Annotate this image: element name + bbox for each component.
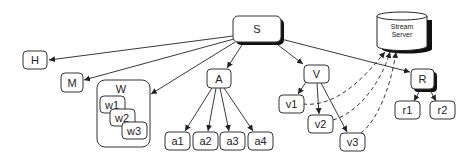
node-h-label: H <box>31 54 39 66</box>
node-r-label: R <box>419 73 427 85</box>
node-w3[interactable]: w3 <box>122 122 147 139</box>
node-h[interactable]: H <box>23 51 47 69</box>
edge-r-r2 <box>431 92 436 101</box>
node-v[interactable]: V <box>304 65 329 83</box>
node-v2[interactable]: v2 <box>308 115 333 133</box>
edge-a-a4 <box>224 88 253 131</box>
edge-v-v2 <box>317 83 319 114</box>
node-r1[interactable]: r1 <box>395 101 420 119</box>
node-r[interactable]: R <box>411 69 437 92</box>
edge-v-v1 <box>298 82 306 94</box>
edge-s-a <box>227 45 242 68</box>
node-v1[interactable]: v1 <box>279 95 304 113</box>
node-w-label: W <box>116 83 127 95</box>
edge-a-a1 <box>185 88 212 131</box>
node-a1-label: a1 <box>171 135 183 147</box>
edge-r-r1 <box>414 92 419 101</box>
node-v3[interactable]: v3 <box>340 133 365 151</box>
node-m[interactable]: M <box>61 73 83 92</box>
node-a2[interactable]: a2 <box>193 132 218 150</box>
hierarchy-diagram: S H M W w1 w2 w3 A a1 a2 a3 <box>0 0 476 164</box>
node-a[interactable]: A <box>207 69 231 88</box>
edge-a-a2 <box>208 88 216 131</box>
node-m-label: M <box>67 77 76 89</box>
node-v2-label: v2 <box>315 118 327 130</box>
node-r1-label: r1 <box>403 104 413 116</box>
node-r2-label: r2 <box>438 104 448 116</box>
node-s-label: S <box>253 23 260 35</box>
edge-a-a3 <box>220 88 229 131</box>
node-a4-label: a4 <box>254 135 266 147</box>
node-w3-label: w3 <box>126 125 141 137</box>
edge-s-h <box>49 36 233 60</box>
node-a3[interactable]: a3 <box>220 132 245 150</box>
stream-server-label-line2: Server <box>392 31 413 38</box>
stream-server-cylinder-icon[interactable]: Stream Server <box>377 12 432 53</box>
node-v-label: V <box>313 68 321 80</box>
node-a1[interactable]: a1 <box>165 132 190 150</box>
edge-s-v <box>278 45 303 64</box>
stream-server-label-line1: Stream <box>391 23 414 30</box>
node-v1-label: v1 <box>286 98 298 110</box>
dashed-edge-v2-stream <box>333 52 390 120</box>
node-a4[interactable]: a4 <box>248 132 273 150</box>
node-s[interactable]: S <box>233 16 284 45</box>
node-a3-label: a3 <box>226 135 238 147</box>
node-r2[interactable]: r2 <box>430 101 455 119</box>
node-a2-label: a2 <box>199 135 211 147</box>
node-v3-label: v3 <box>347 136 359 148</box>
node-a-label: A <box>215 73 223 85</box>
